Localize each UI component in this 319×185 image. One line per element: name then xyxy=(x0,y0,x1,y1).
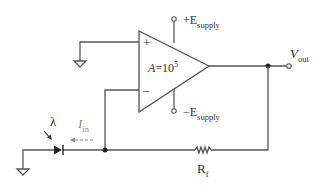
supply-pos-label: +Esupply xyxy=(183,13,221,30)
noninverting-input-wire xyxy=(80,42,139,61)
current-label: Iin xyxy=(77,116,90,134)
current-arrowhead xyxy=(70,138,75,143)
resistor-rf xyxy=(195,147,211,153)
opamp-gain-label: A=105 xyxy=(147,60,178,75)
photodiode-ground-wire xyxy=(23,150,54,169)
output-terminal xyxy=(287,64,292,69)
light-lambda-label: λ xyxy=(50,114,57,129)
feedback-wire-right xyxy=(211,66,268,150)
inverting-input-wire xyxy=(105,90,139,150)
circuit-diagram: + − A=105 +Esupply −Esupply Vout Rf λ xyxy=(0,0,319,185)
supply-neg-label: −Esupply xyxy=(183,105,221,122)
inverting-node-dot xyxy=(103,148,108,153)
ground-icon xyxy=(17,169,29,175)
photodiode-icon xyxy=(54,146,62,155)
supply-pos-terminal xyxy=(172,17,176,21)
ground-icon xyxy=(74,61,86,67)
opamp-plus-symbol: + xyxy=(143,35,150,50)
resistor-label: Rf xyxy=(197,161,209,179)
opamp-minus-symbol: − xyxy=(142,84,149,99)
output-label: Vout xyxy=(290,46,309,64)
supply-neg-terminal xyxy=(172,109,176,113)
